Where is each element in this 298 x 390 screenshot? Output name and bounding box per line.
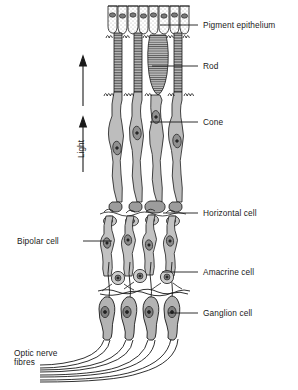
label-amacrine-cell: Amacrine cell bbox=[203, 267, 254, 277]
label-horizontal-cell: Horizontal cell bbox=[203, 208, 257, 218]
label-optic-nerve-fibres-line2: fibres bbox=[14, 357, 35, 367]
ganglion-cell-layer bbox=[99, 296, 180, 340]
label-pigment-epithelium: Pigment epithelium bbox=[203, 20, 275, 30]
photoreceptor-outer-segments bbox=[114, 33, 182, 95]
inner-plexiform-band bbox=[98, 289, 190, 296]
photoreceptor-terminals bbox=[109, 201, 182, 213]
label-rod: Rod bbox=[203, 61, 219, 71]
label-cone: Cone bbox=[203, 117, 223, 127]
horizontal-cell-nuclei bbox=[107, 218, 175, 223]
retina-illustration bbox=[0, 0, 298, 390]
label-bipolar-cell: Bipolar cell bbox=[17, 236, 59, 246]
retina-diagram: Light Pigment epithelium Rod Cone Horizo… bbox=[0, 0, 298, 390]
optic-nerve-fibres bbox=[40, 339, 178, 382]
pigment-epithelium-layer bbox=[108, 6, 190, 34]
light-direction-label: Light bbox=[76, 140, 86, 158]
label-ganglion-cell: Ganglion cell bbox=[203, 308, 252, 318]
